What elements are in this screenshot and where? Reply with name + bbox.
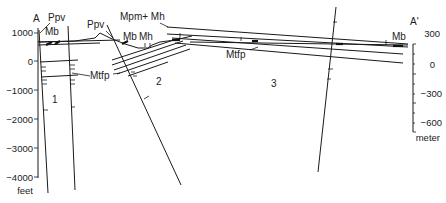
fault-tick <box>144 96 149 99</box>
left-tick-label: 0 <box>28 56 33 67</box>
left-tick-label: 1000 <box>12 27 33 38</box>
stratum-line <box>128 62 168 76</box>
right-tick-label: −600 <box>421 117 442 128</box>
block-label: 2 <box>156 76 162 87</box>
unit-label-ppv: Ppv <box>87 19 104 30</box>
fault-line <box>39 30 48 193</box>
section-start-label: A <box>33 13 40 24</box>
right-tick-label: 300 <box>424 28 440 39</box>
unit-label-mb: Mb <box>123 31 137 42</box>
unit-label-mtfp: Mtfp <box>90 70 110 81</box>
stratum-line <box>41 75 78 77</box>
unit-label-mb: Mb <box>45 26 59 37</box>
left-axis-unit: feet <box>17 185 33 196</box>
left-tick-label: −1000 <box>6 85 33 96</box>
stratum-line <box>190 42 408 45</box>
left-depth-axis: 1000 0 −1000 −2000 −3000 −4000 feet <box>6 27 38 196</box>
section-end-label: A' <box>410 16 419 27</box>
cross-section-diagram: 1000 0 −1000 −2000 −3000 −4000 feet 300 … <box>0 0 446 203</box>
fault-line <box>68 26 75 190</box>
fault-line <box>107 25 181 185</box>
block-label: 3 <box>271 78 277 89</box>
block-3-strata <box>145 27 408 63</box>
right-axis-unit: meter <box>416 132 440 143</box>
right-tick-label: 0 <box>430 59 435 70</box>
right-tick-label: −300 <box>421 88 442 99</box>
unit-label-mh: Mh <box>139 31 153 42</box>
block-label: 1 <box>52 94 58 105</box>
unit-label-mb: Mb <box>392 31 406 42</box>
fault-line <box>318 7 336 172</box>
left-tick-label: −3000 <box>6 143 33 154</box>
left-tick-label: −2000 <box>6 114 33 125</box>
stratum-line <box>117 49 190 74</box>
unit-label-ppv: Ppv <box>48 12 65 23</box>
unit-label-mpm-mh: Mpm+ Mh <box>120 11 165 22</box>
left-tick-label: −4000 <box>6 172 33 183</box>
unit-label-mtfp: Mtfp <box>226 49 246 60</box>
leader-line <box>160 23 168 27</box>
stratum-line <box>114 45 186 70</box>
stratum-line <box>40 60 78 62</box>
right-depth-axis: 300 0 −300 −600 meter <box>413 28 442 143</box>
